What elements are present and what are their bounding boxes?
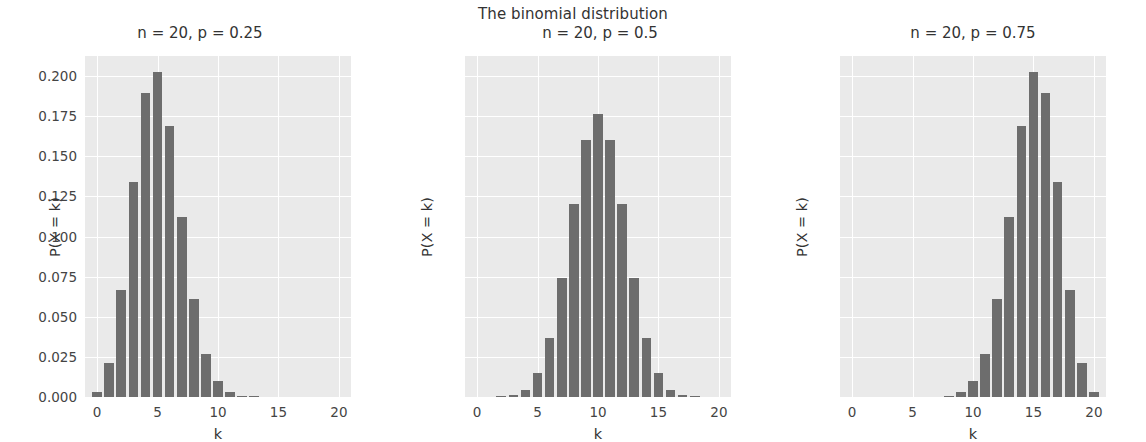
bar (617, 204, 627, 397)
bar (533, 373, 543, 397)
plot-area-1 (85, 56, 351, 397)
bar (666, 390, 676, 397)
y-tick-label: 0.025 (38, 349, 77, 365)
bar (1004, 217, 1014, 397)
y-tick-label: 0.200 (38, 68, 77, 84)
x-tick-label: 10 (209, 404, 226, 420)
y-tick-label: 0.000 (38, 389, 77, 405)
y-tick-label: 0.175 (38, 108, 77, 124)
figure-canvas: The binomial distribution n = 20, p = 0.… (0, 0, 1146, 442)
gridline-vertical (852, 56, 853, 397)
gridline-vertical (278, 56, 279, 397)
bar (141, 93, 151, 397)
y-tick-label: 0.075 (38, 269, 77, 285)
bar (557, 278, 567, 397)
bar (1017, 126, 1027, 397)
bar (496, 396, 506, 397)
bar (1065, 290, 1075, 397)
x-axis-label-3: k (840, 426, 1106, 442)
gridline-vertical (218, 56, 219, 397)
bar (521, 390, 531, 397)
subplot-3: n = 20, p = 0.75 05101520kP(X = k) (800, 0, 1146, 442)
x-tick-label: 0 (848, 404, 857, 420)
bar (1077, 363, 1087, 397)
bar (1029, 72, 1039, 397)
x-axis-label-1: k (85, 426, 351, 442)
gridline-vertical (1094, 56, 1095, 397)
gridline-vertical (339, 56, 340, 397)
y-tick-label: 0.050 (38, 309, 77, 325)
bar (116, 290, 126, 397)
x-tick-label: 20 (710, 404, 727, 420)
bar (992, 299, 1002, 397)
bar (569, 204, 579, 397)
bar (968, 381, 978, 397)
plot-area-3 (840, 56, 1106, 397)
bar (654, 373, 664, 397)
bar (129, 182, 139, 397)
x-tick-label: 5 (908, 404, 917, 420)
gridline-vertical (658, 56, 659, 397)
y-axis-label-1: P(X = k) (47, 197, 63, 257)
x-tick-label: 15 (650, 404, 667, 420)
x-tick-label: 20 (1085, 404, 1102, 420)
bar (249, 396, 259, 397)
bar (581, 140, 591, 397)
bar (642, 338, 652, 397)
gridline-vertical (719, 56, 720, 397)
bar (944, 396, 954, 397)
bar (237, 396, 247, 397)
bar (605, 140, 615, 397)
x-tick-label: 0 (473, 404, 482, 420)
bar (678, 395, 688, 397)
bar (189, 299, 199, 397)
subplot-1-title: n = 20, p = 0.25 (0, 24, 400, 42)
bar (980, 354, 990, 397)
subplot-3-title: n = 20, p = 0.75 (800, 24, 1146, 42)
subplot-2: n = 20, p = 0.5 05101520kP(X = k) (400, 0, 800, 442)
gridline-vertical (913, 56, 914, 397)
y-tick-label: 0.150 (38, 148, 77, 164)
bar (629, 278, 639, 397)
bar (104, 363, 114, 397)
bar (545, 338, 555, 397)
gridline-vertical (97, 56, 98, 397)
bar (153, 72, 163, 397)
x-tick-label: 15 (1025, 404, 1042, 420)
subplot-2-title: n = 20, p = 0.5 (400, 24, 800, 42)
bar (201, 354, 211, 397)
y-axis-label-2: P(X = k) (419, 197, 435, 257)
bar (92, 392, 102, 397)
bar (593, 114, 603, 397)
bar (690, 396, 700, 397)
bar (1089, 392, 1099, 397)
gridline-vertical (973, 56, 974, 397)
x-tick-label: 15 (270, 404, 287, 420)
x-tick-label: 20 (330, 404, 347, 420)
x-axis-label-2: k (465, 426, 731, 442)
gridline-vertical (538, 56, 539, 397)
subplot-1: n = 20, p = 0.25 0.0000.0250.0500.0750.1… (0, 0, 400, 442)
bar (956, 392, 966, 397)
bar (1041, 93, 1051, 397)
x-tick-label: 5 (153, 404, 162, 420)
bar (213, 381, 223, 397)
y-axis-label-3: P(X = k) (794, 197, 810, 257)
bar (1053, 182, 1063, 397)
bar (177, 217, 187, 397)
x-tick-label: 10 (589, 404, 606, 420)
x-tick-label: 0 (93, 404, 102, 420)
bar (225, 392, 235, 397)
x-tick-label: 10 (964, 404, 981, 420)
x-tick-label: 5 (533, 404, 542, 420)
plot-area-2 (465, 56, 731, 397)
gridline-vertical (477, 56, 478, 397)
bar (509, 395, 519, 397)
bar (165, 126, 175, 397)
